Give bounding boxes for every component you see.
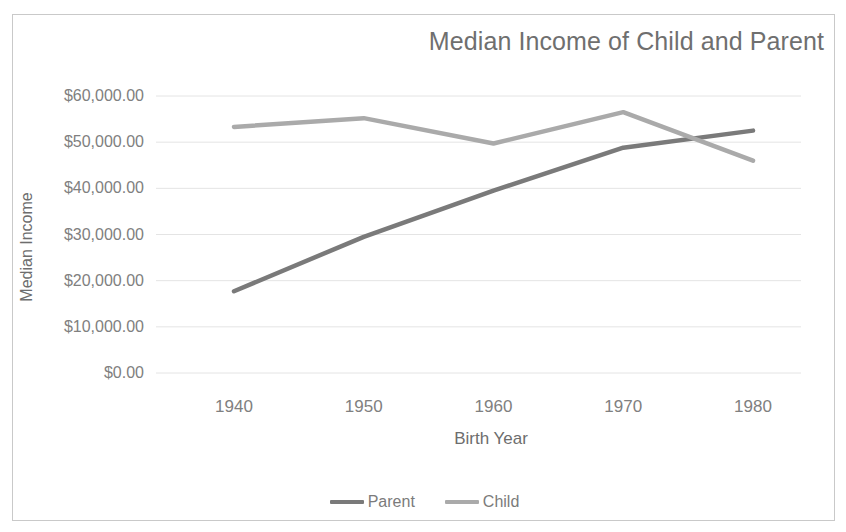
y-axis-tick-label: $0.00 <box>13 364 144 382</box>
plot-area: $60,000.00$50,000.00$40,000.00$30,000.00… <box>13 15 836 522</box>
legend-item-parent[interactable]: Parent <box>330 493 415 511</box>
chart-legend: ParentChild <box>13 493 836 511</box>
x-axis-title: Birth Year <box>454 429 528 449</box>
x-axis-tick-label: 1960 <box>475 397 513 417</box>
series-line-parent <box>234 131 753 292</box>
legend-item-child[interactable]: Child <box>445 493 519 511</box>
chart-frame: Median Income of Child and Parent $60,00… <box>12 14 835 521</box>
x-axis-tick-label: 1950 <box>345 397 383 417</box>
series-line-child <box>234 112 753 160</box>
y-axis-tick-label: $50,000.00 <box>13 133 144 151</box>
x-axis-tick-label: 1970 <box>604 397 642 417</box>
y-axis-tick-label: $10,000.00 <box>13 318 144 336</box>
legend-swatch-child <box>445 500 479 504</box>
legend-label: Parent <box>368 493 415 511</box>
y-axis-tick-label: $60,000.00 <box>13 87 144 105</box>
y-axis-title: Median Income <box>18 192 36 301</box>
legend-label: Child <box>483 493 519 511</box>
data-series-lines <box>234 112 753 291</box>
x-axis-tick-label: 1940 <box>215 397 253 417</box>
legend-swatch-parent <box>330 500 364 504</box>
x-axis-tick-label: 1980 <box>734 397 772 417</box>
